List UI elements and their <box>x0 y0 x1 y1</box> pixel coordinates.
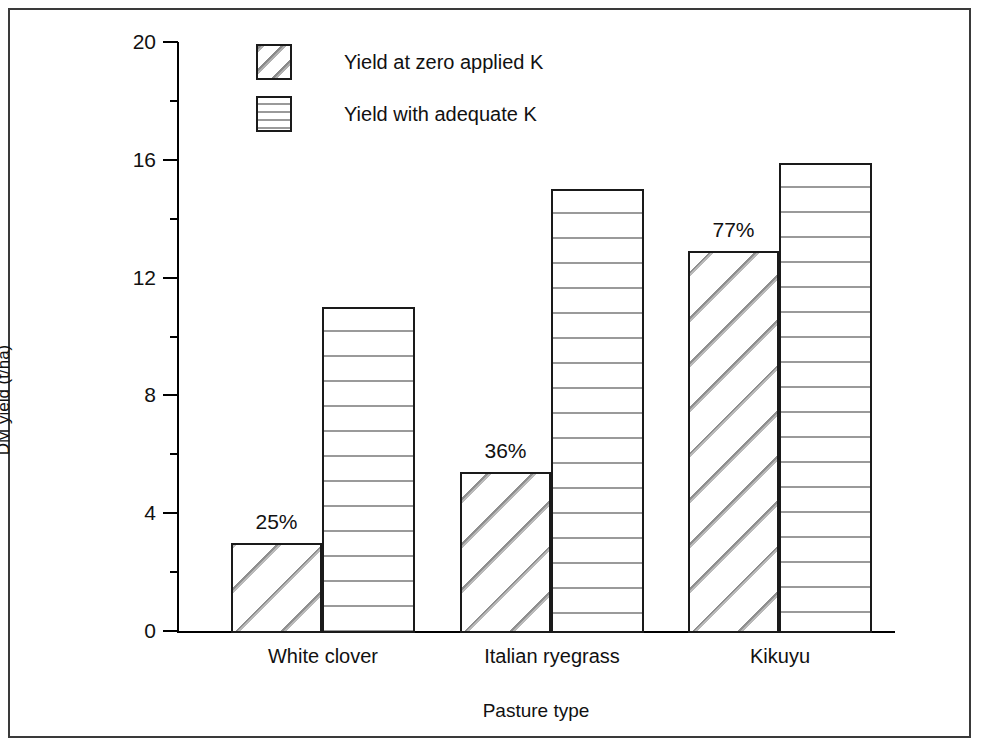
y-axis-tick <box>163 630 178 632</box>
y-axis-tick-label-text: 4 <box>110 502 156 523</box>
bar <box>322 307 415 633</box>
y-axis-tick <box>163 41 178 43</box>
x-axis-category-label: Italian ryegrass <box>422 645 682 668</box>
y-axis-tick-label-text: 8 <box>110 384 156 405</box>
legend-item: Yield with adequate K <box>256 88 543 140</box>
y-axis-tick <box>163 159 178 161</box>
bar-percentage-annotation: 77% <box>678 218 789 242</box>
x-axis-category-label: Kikuyu <box>650 645 910 668</box>
y-axis-tick-label-text: 0 <box>110 620 156 641</box>
y-axis-tick <box>163 512 178 514</box>
bar-percentage-annotation: 25% <box>221 510 332 534</box>
y-axis-tick-label: 0 <box>100 620 156 641</box>
y-axis-tick-label: 12 <box>100 267 156 288</box>
bar-percentage-annotation: 36% <box>450 439 561 463</box>
y-axis-tick-label: 16 <box>100 149 156 170</box>
y-axis-minor-tick <box>170 453 178 455</box>
legend-swatch-horizontal-dots <box>256 96 292 132</box>
y-axis-minor-tick <box>170 336 178 338</box>
chart-legend: Yield at zero applied KYield with adequa… <box>256 36 543 140</box>
y-axis-minor-tick <box>170 100 178 102</box>
y-axis-minor-tick <box>170 218 178 220</box>
bar <box>688 251 779 633</box>
y-axis-title: DM yield (t/ha) <box>0 290 14 510</box>
y-axis-line <box>177 42 179 633</box>
bar <box>551 189 644 633</box>
y-axis-tick <box>163 277 178 279</box>
legend-swatch-diagonal-hatch <box>256 44 292 80</box>
plot-area: 201612840 DM yield (t/ha) 25%36%77% Whit… <box>0 0 981 748</box>
bar <box>779 163 872 633</box>
bar <box>460 472 551 633</box>
y-axis-tick <box>163 394 178 396</box>
legend-item: Yield at zero applied K <box>256 36 543 88</box>
y-axis-tick-label-text: 16 <box>110 149 156 170</box>
x-axis-category-label: White clover <box>193 645 453 668</box>
x-axis-title: Pasture type <box>177 700 895 722</box>
y-axis-minor-tick <box>170 571 178 573</box>
y-axis-tick-label: 8 <box>100 384 156 405</box>
chart-figure: 201612840 DM yield (t/ha) 25%36%77% Whit… <box>0 0 981 748</box>
bar <box>231 543 322 633</box>
y-axis-tick-label: 4 <box>100 502 156 523</box>
y-axis-tick-label: 20 <box>100 31 156 52</box>
legend-label: Yield at zero applied K <box>344 51 543 74</box>
y-axis-tick-label-text: 12 <box>110 267 156 288</box>
legend-label: Yield with adequate K <box>344 103 537 126</box>
y-axis-tick-label-text: 20 <box>110 31 156 52</box>
